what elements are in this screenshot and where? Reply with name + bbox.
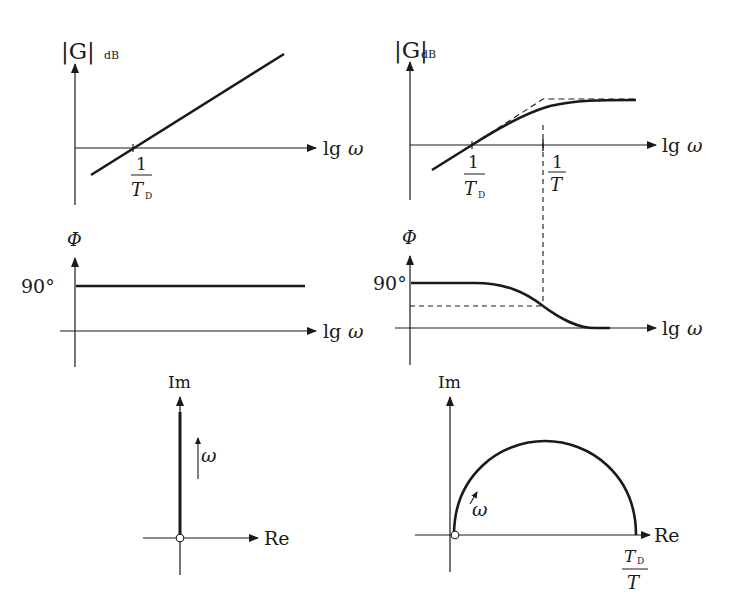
level-label: 90° [373,272,407,294]
endpoint-label-den: T [627,572,641,593]
tick1-label-den: T [464,178,478,199]
nyquist-semicircle [454,441,636,535]
diagram-canvas: |G| dB 1 T D lg ω |G| dB 1 T D 1 T lg ω … [0,0,735,616]
x-axis-label-lg: lg [662,317,680,339]
panel-phase-ideal: Φ 90° lg ω [21,229,364,367]
omega-label: ω [472,498,488,520]
x-axis-label-lg: lg [662,134,680,156]
origin-circle [451,531,459,539]
tick1-label-num: 1 [468,152,479,172]
panel-nyquist-ideal: Im Re ω [143,372,290,575]
im-axis-label: Im [168,372,191,392]
magnitude-curve [432,100,636,170]
tick-label-num: 1 [136,154,147,174]
magnitude-line [91,54,284,175]
x-axis-label-omega: ω [348,320,364,342]
tick2-label-num: 1 [552,152,563,172]
tick-label-den: T [131,179,145,200]
im-axis-label: Im [438,372,461,392]
y-axis-label-sub: dB [104,49,119,62]
panel-phase-real: Φ 90° lg ω [373,227,703,365]
x-axis-label-omega: ω [687,317,703,339]
re-axis-label: Re [264,527,290,549]
y-axis-label: Φ [402,227,417,248]
tick2-label-den: T [550,174,564,195]
x-axis-label-lg: lg [323,320,341,342]
endpoint-label-num: T [624,546,637,566]
y-axis-label-sub: dB [421,48,436,61]
x-axis-label-lg: lg [323,137,341,159]
tick1-label-den-sub: D [478,190,485,200]
y-axis-label: |G| [61,38,95,65]
endpoint-label-num-sub: D [637,556,644,566]
tick-label-den-sub: D [145,191,152,201]
x-axis-label-omega: ω [348,137,364,159]
re-axis-label: Re [654,524,680,546]
origin-circle [176,534,184,542]
omega-label: ω [201,444,217,466]
panel-magnitude-ideal: |G| dB 1 T D lg ω [61,38,364,205]
x-axis-label-omega: ω [687,134,703,156]
panel-nyquist-real: Im Re ω T D T [415,372,680,593]
y-axis-label: Φ [67,229,82,250]
panel-magnitude-real: |G| dB 1 T D 1 T lg ω [394,37,703,303]
level-label: 90° [21,275,55,297]
